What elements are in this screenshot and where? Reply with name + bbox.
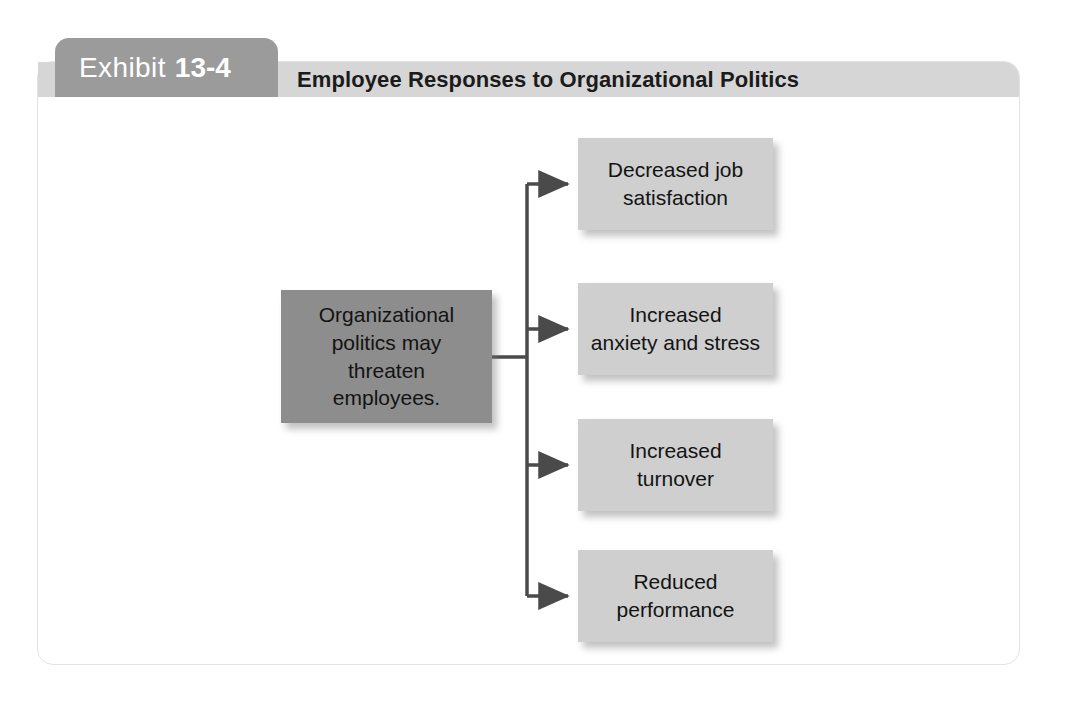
outcome-node-increased-turnover: Increased turnover bbox=[578, 419, 773, 511]
outcome-node-increased-anxiety-and-stress: Increased anxiety and stress bbox=[578, 283, 773, 375]
outcome-node-decreased-job-satisfaction: Decreased job satisfaction bbox=[578, 138, 773, 230]
source-node-organizational-politics: Organizational politics may threaten emp… bbox=[281, 290, 492, 423]
outcome-node-reduced-performance: Reduced performance bbox=[578, 550, 773, 642]
flowchart-diagram: Organizational politics may threaten emp… bbox=[0, 0, 1070, 712]
connector-lines bbox=[0, 0, 1070, 712]
